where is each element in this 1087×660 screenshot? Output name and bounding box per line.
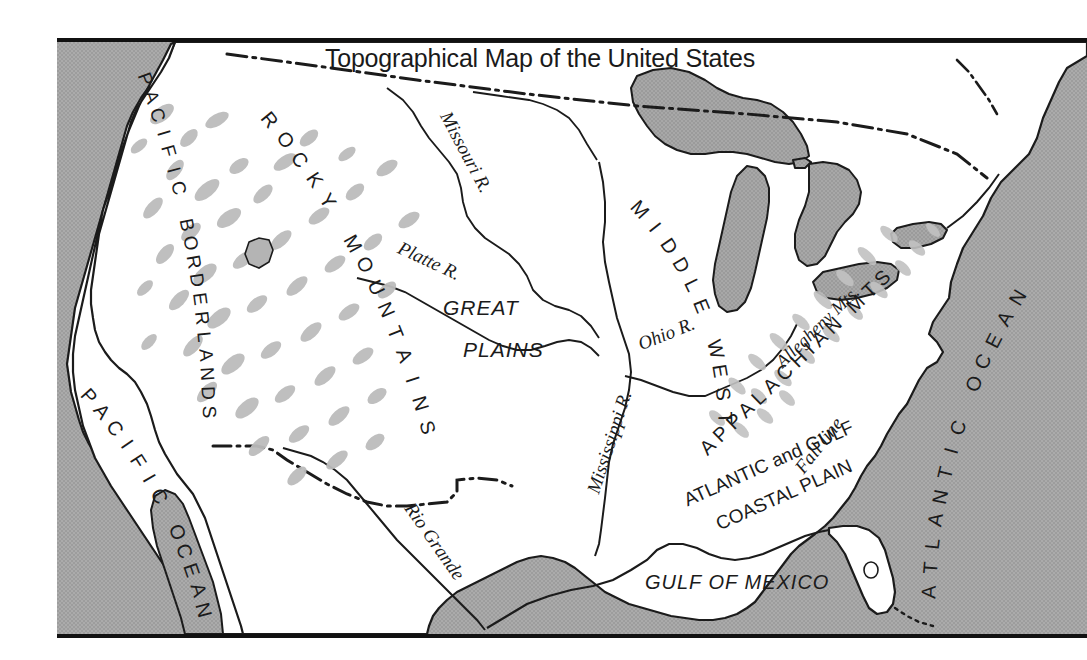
map-frame: GREAT PLAINS GULF OF MEXICO Missouri R. … [57,38,1087,638]
arc-glyph: L [921,533,946,551]
arc-glyph: D [197,386,220,405]
arc-glyph: T [919,557,943,575]
arc-glyph: R [190,310,214,330]
arc-glyph: S [711,387,736,406]
arc-glyph: T [713,411,736,428]
arc-glyph: W [702,337,730,365]
arc-glyph: E [188,291,212,310]
arc-glyph: N [196,367,219,386]
page-title: Topographical Map of the United States [280,44,800,73]
arc-glyph: N [928,483,954,506]
arc-glyph: A [194,348,217,366]
arc-glyph: S [198,406,220,423]
map-page: GREAT PLAINS GULF OF MEXICO Missouri R. … [0,0,1087,660]
arc-glyph: A [918,581,942,599]
lake-okeechobee [864,562,878,578]
arc-glyph: L [192,330,215,347]
arc-glyph: A [924,508,949,529]
